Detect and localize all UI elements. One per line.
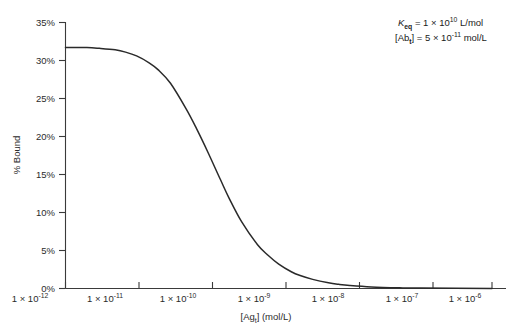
x-axis-title: [Agt] (mol/L) — [241, 311, 292, 324]
y-axis-ticks — [59, 23, 66, 289]
annotation-abt-unit: mol/L — [461, 32, 487, 43]
annotation-keq-unit: L/mol — [457, 17, 483, 28]
x-tick-label-1e-12: 1 × 10-12 — [12, 292, 49, 304]
x-tick-label-1e-7: 1 × 10-7 — [386, 292, 419, 304]
x-tick-mantissa-5: 1 × 10 — [386, 293, 413, 304]
x-tick-exponent-5: -7 — [412, 292, 418, 299]
x-tick-exponent-6: -6 — [475, 292, 481, 299]
annotation-keq: Keq = 1 × 1010 L/mol — [398, 16, 483, 31]
x-tick-label-1e-9: 1 × 10-9 — [238, 292, 271, 304]
x-tick-exponent-1: -11 — [114, 292, 124, 299]
y-tick-label-5: 5% — [41, 245, 55, 256]
x-tick-mantissa-0: 1 × 10 — [12, 293, 39, 304]
x-tick-label-1e-10: 1 × 10-10 — [160, 292, 197, 304]
x-axis-title-prefix: [Ag — [241, 311, 255, 322]
y-tick-label-20: 20% — [36, 131, 56, 142]
y-tick-label-15: 15% — [36, 169, 56, 180]
x-tick-label-1e-6: 1 × 10-6 — [449, 292, 482, 304]
y-tick-label-35: 35% — [36, 17, 56, 28]
y-axis-tick-labels: 0% 5% 10% 15% 20% 25% 30% 35% — [36, 17, 56, 294]
x-tick-exponent-0: -12 — [38, 292, 48, 299]
annotation-keq-equals: = 1 × 10 — [412, 17, 450, 28]
y-tick-label-10: 10% — [36, 207, 56, 218]
y-axis-title: % Bound — [11, 136, 22, 175]
annotation-keq-subscript: eq — [404, 23, 412, 31]
x-tick-mantissa-6: 1 × 10 — [449, 293, 476, 304]
x-axis-title-suffix: ] (mol/L) — [257, 311, 292, 322]
x-tick-exponent-3: -9 — [264, 292, 270, 299]
annotation-abt-symbol: [Ab — [395, 32, 409, 43]
x-tick-exponent-2: -10 — [186, 292, 196, 299]
x-tick-label-1e-11: 1 × 10-11 — [87, 292, 123, 304]
x-tick-label-1e-8: 1 × 10-8 — [312, 292, 345, 304]
y-tick-label-30: 30% — [36, 55, 56, 66]
annotation-abt-exponent: -11 — [452, 31, 462, 38]
x-tick-mantissa-3: 1 × 10 — [238, 293, 265, 304]
x-tick-mantissa-1: 1 × 10 — [87, 293, 114, 304]
x-tick-mantissa-2: 1 × 10 — [160, 293, 187, 304]
annotation-abt-equals: ] = 5 × 10 — [412, 32, 452, 43]
annotation-block: Keq = 1 × 1010 L/mol [Abt] = 5 × 10-11 m… — [395, 16, 487, 45]
x-tick-mantissa-4: 1 × 10 — [312, 293, 339, 304]
y-tick-label-25: 25% — [36, 93, 56, 104]
binding-curve-figure: 0% 5% 10% 15% 20% 25% 30% 35% % Bound 1 … — [0, 0, 520, 335]
x-axis-tick-labels: 1 × 10-12 1 × 10-11 1 × 10-10 1 × 10-9 1… — [12, 292, 482, 304]
x-tick-exponent-4: -8 — [338, 292, 344, 299]
annotation-abt: [Abt] = 5 × 10-11 mol/L — [395, 31, 487, 45]
binding-curve-line — [66, 48, 493, 289]
